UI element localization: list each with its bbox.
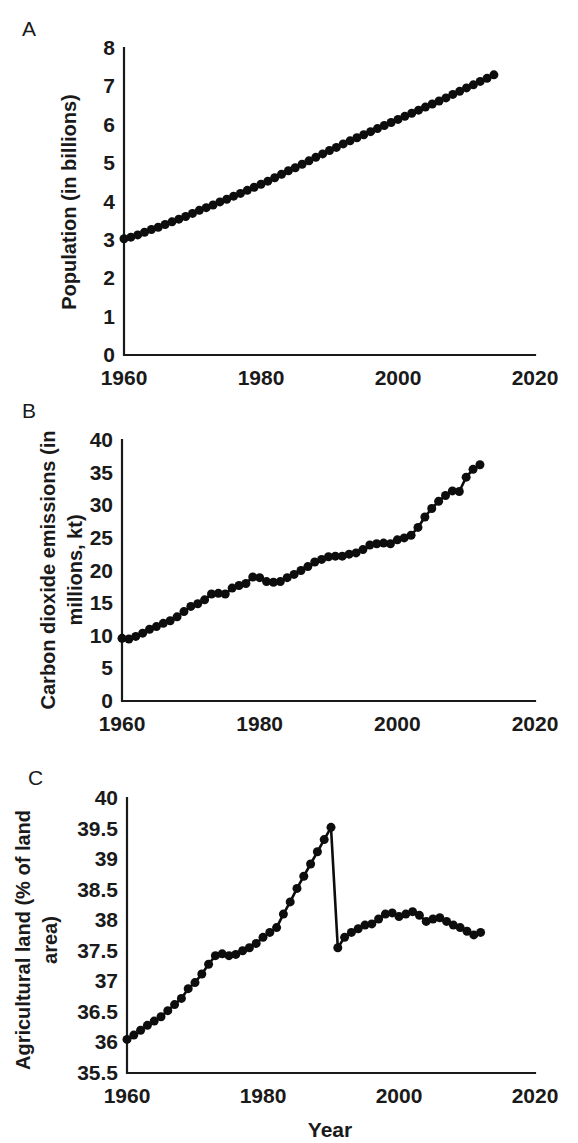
y-axis-title: Agricultural land (% of land <box>12 810 34 1070</box>
y-tick-label: 8 <box>103 36 115 59</box>
x-tick-label: 1960 <box>104 1084 151 1107</box>
data-point-marker <box>177 994 186 1003</box>
data-point-marker <box>163 1006 172 1015</box>
y-tick-label: 37 <box>95 969 118 992</box>
y-tick-label: 36 <box>95 1030 118 1053</box>
y-tick-label: 36.5 <box>77 1000 118 1023</box>
y-tick-label: 4 <box>103 190 115 213</box>
data-point-marker <box>489 70 498 79</box>
y-tick-label: 35 <box>90 461 114 484</box>
y-tick-label: 35.5 <box>77 1061 118 1084</box>
y-tick-label: 15 <box>90 591 114 614</box>
data-point-marker <box>241 579 250 588</box>
x-tick-label: 2000 <box>374 712 421 735</box>
y-tick-label: 7 <box>103 74 115 97</box>
data-point-marker <box>293 884 302 893</box>
data-point-marker <box>327 823 336 832</box>
data-point-marker <box>434 497 443 506</box>
data-point-marker <box>279 910 288 919</box>
y-axis-title: Population (in billions) <box>58 94 80 310</box>
data-point-marker <box>306 860 315 869</box>
data-point-marker <box>475 460 484 469</box>
y-tick-label: 0 <box>103 343 115 366</box>
data-series-line <box>127 827 481 1039</box>
x-tick-label: 1960 <box>101 366 148 389</box>
y-tick-label: 2 <box>103 266 115 289</box>
data-point-marker <box>299 872 308 881</box>
y-axis-title: millions, kt) <box>64 514 86 625</box>
y-tick-label: 1 <box>103 305 115 328</box>
data-point-marker <box>462 473 471 482</box>
y-tick-label: 30 <box>90 493 113 516</box>
y-tick-label: 39.5 <box>77 817 118 840</box>
data-point-marker <box>455 487 464 496</box>
y-tick-label: 38.5 <box>77 878 118 901</box>
panel-b-plot: 05101520253035401960198020002020Carbon d… <box>0 390 578 765</box>
data-point-marker <box>191 978 200 987</box>
x-tick-label: 2020 <box>512 712 559 735</box>
y-axis-title: area) <box>39 916 61 964</box>
y-tick-label: 20 <box>90 559 113 582</box>
data-point-marker <box>197 970 206 979</box>
axis-spine <box>124 48 535 355</box>
y-tick-label: 40 <box>90 428 113 451</box>
data-point-marker <box>333 943 342 952</box>
y-axis-title: Carbon dioxide emissions (in <box>37 431 59 710</box>
figure-container: A 0123456781960198020002020Population (i… <box>0 0 578 1143</box>
y-tick-label: 25 <box>90 526 114 549</box>
data-point-marker <box>184 984 193 993</box>
x-tick-label: 2020 <box>512 1084 559 1107</box>
x-tick-label: 2000 <box>375 366 422 389</box>
y-tick-label: 10 <box>90 624 113 647</box>
data-point-marker <box>420 513 429 522</box>
y-tick-label: 38 <box>95 908 119 931</box>
data-point-marker <box>413 523 422 532</box>
x-tick-label: 2020 <box>512 366 559 389</box>
x-tick-label: 1980 <box>238 366 285 389</box>
y-tick-label: 3 <box>103 228 115 251</box>
x-tick-label: 1980 <box>236 712 283 735</box>
axis-spine <box>122 440 535 701</box>
data-point-marker <box>204 960 213 969</box>
data-point-marker <box>320 835 329 844</box>
panel-c-plot: 35.53636.53737.53838.53939.5401960198020… <box>0 765 578 1143</box>
y-tick-label: 5 <box>101 656 113 679</box>
data-point-marker <box>200 595 209 604</box>
panel-c: C 35.53636.53737.53838.53939.54019601980… <box>0 765 578 1143</box>
panel-a-plot: 0123456781960198020002020Population (in … <box>0 0 578 390</box>
y-tick-label: 5 <box>103 151 115 174</box>
data-point-marker <box>221 589 230 598</box>
panel-a: A 0123456781960198020002020Population (i… <box>0 0 578 390</box>
y-tick-label: 0 <box>101 689 113 712</box>
x-tick-label: 1960 <box>99 712 146 735</box>
data-point-marker <box>286 897 295 906</box>
panel-b: B 05101520253035401960198020002020Carbon… <box>0 390 578 765</box>
y-tick-label: 40 <box>95 786 118 809</box>
data-point-marker <box>313 847 322 856</box>
x-tick-label: 2000 <box>376 1084 423 1107</box>
y-tick-label: 6 <box>103 113 115 136</box>
data-point-marker <box>427 504 436 513</box>
y-tick-label: 37.5 <box>77 939 118 962</box>
x-tick-label: 1980 <box>240 1084 287 1107</box>
data-point-marker <box>272 923 281 932</box>
data-point-marker <box>252 939 261 948</box>
x-axis-title: Year <box>308 1118 352 1141</box>
data-point-marker <box>476 928 485 937</box>
y-tick-label: 39 <box>95 847 118 870</box>
data-point-marker <box>407 531 416 540</box>
data-point-marker <box>170 1000 179 1009</box>
data-point-marker <box>157 1012 166 1021</box>
data-point-marker <box>415 911 424 920</box>
